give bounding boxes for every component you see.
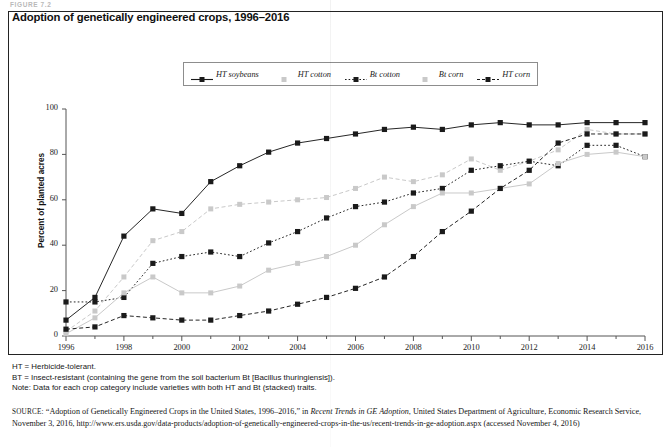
x-tick-label: 2002 xyxy=(223,343,257,352)
y-tick-label: 80 xyxy=(36,148,58,157)
note-stacked: Note: Data for each crop category includ… xyxy=(12,383,335,394)
source-text-1: “Adoption of Genetically Engineered Crop… xyxy=(46,407,311,416)
x-tick-label: 2012 xyxy=(512,343,546,352)
x-tick-label: 2006 xyxy=(339,343,373,352)
x-tick-label: 2008 xyxy=(396,343,430,352)
x-tick-label: 2000 xyxy=(165,343,199,352)
y-tick-label: 100 xyxy=(36,103,58,112)
x-tick-label: 2016 xyxy=(628,343,662,352)
x-tick-label: 2004 xyxy=(281,343,315,352)
source-italic-1: Recent Trends in GE Adoption xyxy=(310,407,408,416)
x-tick-label: 2010 xyxy=(454,343,488,352)
y-tick-label: 0 xyxy=(36,330,58,339)
chart-source: SOURCE: “Adoption of Genetically Enginee… xyxy=(12,406,662,430)
note-bt: BT = Insect-resistant (containing the ge… xyxy=(12,373,335,384)
y-tick-label: 60 xyxy=(36,194,58,203)
y-tick-label: 40 xyxy=(36,239,58,248)
x-tick-label: 1998 xyxy=(107,343,141,352)
y-tick-label: 20 xyxy=(36,285,58,294)
series-ht-cotton xyxy=(64,127,648,334)
source-prefix: SOURCE: xyxy=(12,408,44,416)
series-bt-cotton xyxy=(63,143,647,305)
note-ht: HT = Herbicide-tolerant. xyxy=(12,362,335,373)
chart-notes: HT = Herbicide-tolerant. BT = Insect-res… xyxy=(12,362,335,394)
x-tick-label: 2014 xyxy=(570,343,604,352)
x-tick-label: 1996 xyxy=(49,343,83,352)
